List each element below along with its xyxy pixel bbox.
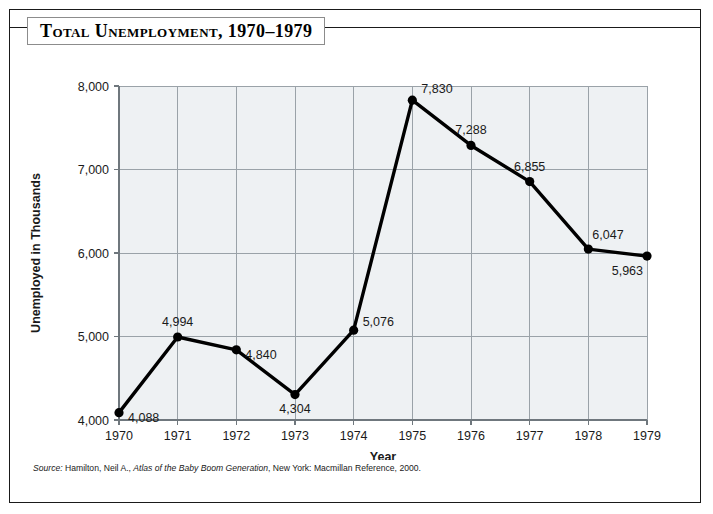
source-note: Source: Hamilton, Neil A., Atlas of the … [33,462,682,474]
data-point-label: 5,963 [612,264,643,278]
data-point-label: 6,047 [592,228,623,242]
y-axis-tick-label: 4,000 [78,414,109,428]
data-point-marker [349,326,358,335]
x-axis-tick-label: 1978 [574,429,602,443]
data-point-label: 4,994 [162,315,193,329]
x-axis-tick-label: 1971 [164,429,192,443]
data-point-marker [232,345,241,354]
data-point-marker [642,251,651,260]
y-axis-tick-label: 7,000 [78,163,109,177]
source-label: Source: [33,463,63,473]
y-axis-title: Unemployed in Thousands [29,173,43,333]
x-axis-tick-label: 1972 [222,429,250,443]
chart-plot-area: 4,0005,0006,0007,0008,000197019711972197… [10,50,702,460]
data-point-label: 4,088 [128,411,159,425]
data-point-marker [114,408,123,417]
chart-title-box: Total Unemployment, 1970–1979 [27,17,325,45]
y-axis-tick-label: 6,000 [78,247,109,261]
data-point-label: 5,076 [363,315,394,329]
page-title: Total Unemployment, 1970–1979 [40,21,312,42]
figure-container: Total Unemployment, 1970–1979 4,0005,000… [9,9,701,503]
x-axis-tick-label: 1977 [516,429,544,443]
data-point-marker [584,244,593,253]
x-axis-tick-label: 1974 [340,429,368,443]
source-author: Hamilton, Neil A., [63,463,134,473]
data-point-label: 4,840 [245,348,276,362]
x-axis-tick-label: 1970 [105,429,133,443]
data-point-marker [525,177,534,186]
x-axis-tick-label: 1976 [457,429,485,443]
data-point-marker [466,141,475,150]
source-publisher: , New York: Macmillan Reference, 2000. [268,463,421,473]
data-point-label: 7,288 [455,123,486,137]
data-point-marker [408,96,417,105]
unemployment-line-chart: 4,0005,0006,0007,0008,000197019711972197… [10,50,702,460]
x-axis-title: Year [370,450,397,460]
x-axis-tick-label: 1973 [281,429,309,443]
y-axis-tick-label: 5,000 [78,330,109,344]
x-axis-tick-label: 1975 [398,429,426,443]
x-axis-tick-label: 1979 [633,429,661,443]
data-point-marker [290,390,299,399]
data-point-label: 6,855 [514,160,545,174]
data-point-label: 7,830 [421,82,452,96]
y-axis-tick-label: 8,000 [78,80,109,94]
data-point-marker [173,332,182,341]
data-point-label: 4,304 [279,402,310,416]
source-book-title: Atlas of the Baby Boom Generation [133,463,268,473]
